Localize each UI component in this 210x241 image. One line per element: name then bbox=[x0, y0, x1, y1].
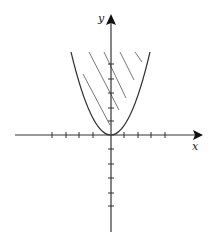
x-axis-label: x bbox=[192, 140, 199, 153]
y-axis-label: y bbox=[97, 12, 105, 25]
parabola-diagram: y x bbox=[0, 0, 210, 241]
hatch-shading bbox=[83, 52, 142, 125]
